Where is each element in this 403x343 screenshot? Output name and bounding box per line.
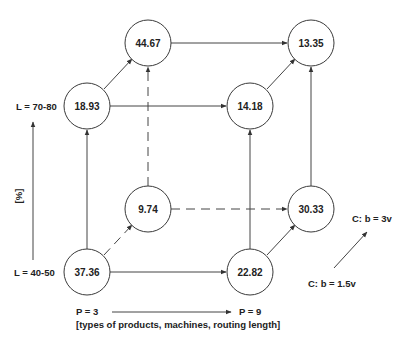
edge-18-to-44 (104, 59, 132, 89)
depth-axis-arrow (334, 232, 367, 268)
axis-unit-label: [%] (13, 189, 24, 204)
node-44-67: 44.67 (125, 20, 171, 66)
node-13-35: 13.35 (288, 20, 334, 66)
node-9-74: 9.74 (125, 186, 171, 232)
node-value: 30.33 (298, 204, 323, 215)
edge-14-to-13 (267, 59, 295, 89)
node-18-93: 18.93 (64, 83, 110, 129)
node-22-82: 22.82 (227, 249, 273, 295)
axis-label-l-bottom: L = 40-50 (14, 267, 55, 278)
node-value: 14.18 (237, 101, 262, 112)
node-value: 9.74 (138, 204, 158, 215)
axis-label-p-left: P = 3 (76, 306, 98, 317)
axis-caption: [types of products, machines, routing le… (76, 319, 280, 330)
axis-label-l-top: L = 70-80 (16, 101, 57, 112)
axis-label-p-right: P = 9 (239, 306, 261, 317)
edge-22-to-30 (267, 225, 295, 255)
axis-label-c-front: C: b = 1.5v (308, 278, 356, 289)
axis-label-c-back: C: b = 3v (352, 213, 393, 224)
node-37-36: 37.36 (64, 249, 110, 295)
edge-37-to-9 (104, 225, 132, 255)
node-14-18: 14.18 (227, 83, 273, 129)
node-value: 37.36 (74, 267, 99, 278)
node-value: 13.35 (298, 38, 323, 49)
node-value: 22.82 (237, 267, 262, 278)
node-30-33: 30.33 (288, 186, 334, 232)
node-value: 44.67 (135, 38, 160, 49)
node-value: 18.93 (74, 101, 99, 112)
cube-diagram: 44.67 13.35 18.93 14.18 9.74 30.33 37.36… (0, 0, 403, 343)
